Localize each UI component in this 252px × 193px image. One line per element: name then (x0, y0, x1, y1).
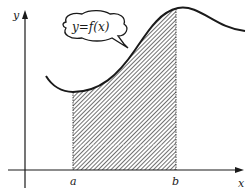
curve-equation-label: y=f(x) (71, 20, 110, 34)
upper-bound-label: b (172, 175, 179, 188)
x-axis-label: x (238, 177, 245, 190)
lower-bound-label: a (70, 175, 77, 188)
y-axis-arrow-icon (22, 10, 28, 19)
y-axis: y (12, 9, 28, 188)
y-axis-label: y (12, 9, 20, 22)
area-under-curve-diagram: y x a b y=f(x) (0, 0, 252, 193)
x-axis: x (8, 167, 245, 190)
curve-label-bubble: y=f(x) (63, 11, 128, 48)
x-axis-arrow-icon (235, 167, 244, 173)
